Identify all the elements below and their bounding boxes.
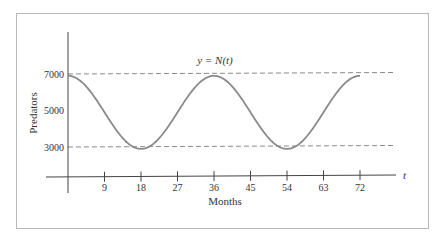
x-tick-label: 72 bbox=[355, 182, 365, 193]
x-tick-label: 54 bbox=[282, 182, 292, 193]
y-ticks: 300050007000 bbox=[44, 69, 64, 153]
x-tick-label: 18 bbox=[136, 182, 146, 193]
chart-canvas: 918273645546372 300050007000 y = N(t) t … bbox=[0, 0, 443, 242]
y-tick-label: 7000 bbox=[44, 69, 64, 80]
y-tick-label: 3000 bbox=[44, 142, 64, 153]
y-tick-label: 5000 bbox=[44, 105, 64, 116]
data-curve bbox=[68, 76, 360, 149]
x-tick-label: 9 bbox=[102, 182, 107, 193]
y-axis-title: Predators bbox=[27, 92, 39, 134]
reference-lines bbox=[68, 73, 396, 148]
reference-line-7000 bbox=[68, 73, 396, 75]
x-axis bbox=[46, 175, 396, 177]
x-tick-label: 27 bbox=[173, 182, 183, 193]
reference-line-3000 bbox=[68, 146, 396, 148]
x-tick-label: 36 bbox=[209, 182, 219, 193]
x-axis-variable: t bbox=[403, 169, 407, 181]
x-tick-label: 63 bbox=[319, 182, 329, 193]
x-tick-label: 45 bbox=[246, 182, 256, 193]
function-label: y = N(t) bbox=[196, 54, 233, 67]
x-axis-title: Months bbox=[208, 195, 242, 207]
x-ticks: 918273645546372 bbox=[102, 170, 365, 193]
